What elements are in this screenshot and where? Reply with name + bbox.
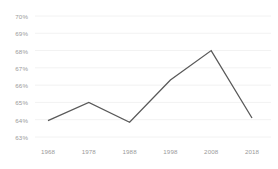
x-axis-tick-label: 2018 (245, 148, 259, 155)
x-axis-tick-label: 1968 (41, 148, 55, 155)
x-axis-tick-label: 1978 (82, 148, 96, 155)
x-axis-tick-label: 1988 (123, 148, 137, 155)
x-axis-tick-label: 1998 (163, 148, 177, 155)
x-axis-tick-label: 2008 (204, 148, 218, 155)
x-axis-tick-labels: 196819781988199820082018 (0, 0, 278, 169)
line-chart: 63%64%65%66%67%68%69%70% 196819781988199… (0, 0, 278, 169)
